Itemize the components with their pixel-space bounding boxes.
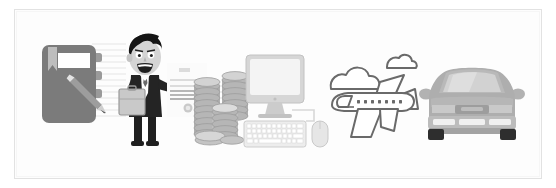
notebook-with-pen-icon: Notebook and pen [36, 35, 128, 145]
desktop-computer-icon: Desktop computer [244, 55, 336, 153]
airplane-with-clouds-icon: Airplane [324, 45, 424, 153]
car-front-view-icon: Car [419, 61, 525, 145]
illustration-scene: Notebook and pen [14, 9, 542, 179]
illustration-canvas: Notebook and pen [0, 0, 556, 188]
